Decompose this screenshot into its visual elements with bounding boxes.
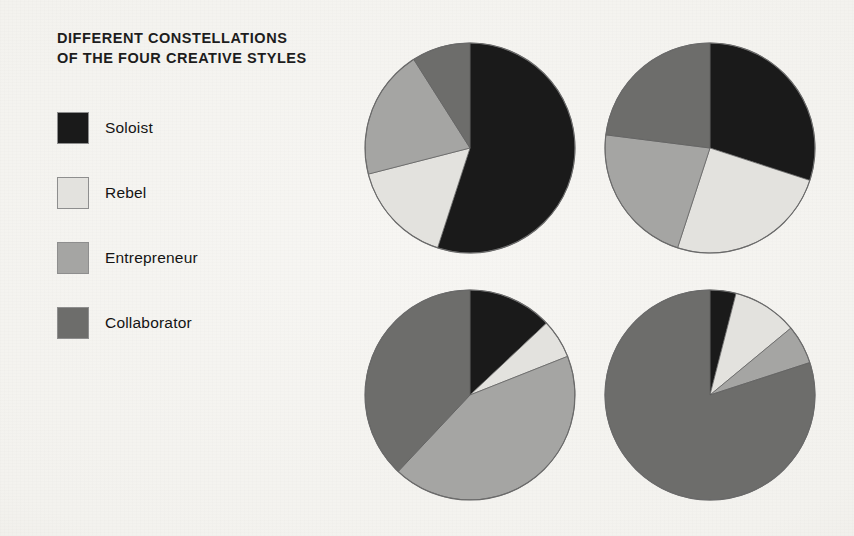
pie-chart-constellation-4[interactable] [601,286,819,504]
legend-item-soloist[interactable]: Soloist [57,112,377,144]
pie-chart-constellation-3[interactable] [361,286,579,504]
legend-swatch-rebel-icon [57,177,89,209]
legend-label-rebel: Rebel [105,184,147,202]
legend-label-soloist: Soloist [105,119,153,137]
legend-label-entrepreneur: Entrepreneur [105,249,198,267]
pie-slice-collaborator[interactable] [606,43,710,148]
legend-swatch-soloist-icon [57,112,89,144]
legend-swatch-collaborator-icon [57,307,89,339]
legend-item-collaborator[interactable]: Collaborator [57,307,377,339]
pie-chart-constellation-1[interactable] [361,39,579,257]
page-title-line-1: DIFFERENT CONSTELLATIONS [57,28,387,48]
page-title: DIFFERENT CONSTELLATIONS OF THE FOUR CRE… [57,28,387,68]
legend-label-collaborator: Collaborator [105,314,192,332]
legend-swatch-entrepreneur-icon [57,242,89,274]
chart-legend: Soloist Rebel Entrepreneur Collaborator [57,112,377,372]
pie-chart-constellation-2[interactable] [601,39,819,257]
legend-item-entrepreneur[interactable]: Entrepreneur [57,242,377,274]
legend-item-rebel[interactable]: Rebel [57,177,377,209]
page-title-line-2: OF THE FOUR CREATIVE STYLES [57,48,387,68]
